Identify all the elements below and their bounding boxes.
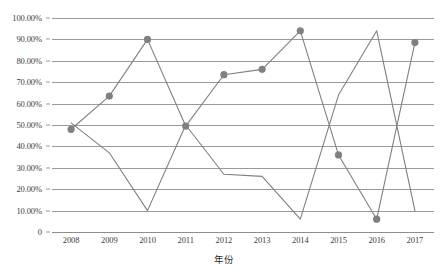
x-axis-tick-label: 2017 <box>407 236 424 245</box>
y-axis-tick-mark <box>46 125 50 126</box>
x-axis-title: 年份 <box>0 252 447 266</box>
x-axis-tick-label: 2014 <box>292 236 309 245</box>
y-axis-tick-label: 40.00% <box>16 142 42 151</box>
data-point-marker <box>144 36 151 43</box>
x-axis-tick-label: 2013 <box>254 236 271 245</box>
x-axis-tick-labels: 2008200920102011201220132014201520162017 <box>52 236 434 250</box>
y-axis-tick-mark <box>46 60 50 61</box>
y-axis-tick-mark <box>46 103 50 104</box>
x-axis-tick-label: 2009 <box>101 236 118 245</box>
series-lines-layer <box>52 18 434 232</box>
y-axis-tick-label: 100.00% <box>12 14 42 23</box>
x-axis-tick-label: 2011 <box>178 236 194 245</box>
y-axis-tick-mark <box>46 232 50 233</box>
data-point-marker <box>220 71 227 78</box>
plot-area <box>52 18 434 232</box>
x-axis-tick-label: 2012 <box>216 236 233 245</box>
y-axis-tick-label: 70.00% <box>16 78 42 87</box>
y-axis-tick-mark <box>46 146 50 147</box>
x-axis-line <box>52 232 434 233</box>
y-axis-tick-mark <box>46 39 50 40</box>
series-line <box>71 31 415 219</box>
y-axis-tick-label: 90.00% <box>16 35 42 44</box>
y-axis-tick-label: 50.00% <box>16 121 42 130</box>
data-point-marker <box>297 27 304 34</box>
y-axis-tick-label: 60.00% <box>16 99 42 108</box>
x-axis-tick-label: 2008 <box>63 236 80 245</box>
line-chart: 100.00%90.00%80.00%70.00%60.00%50.00%40.… <box>0 0 447 269</box>
x-axis-tick-label: 2015 <box>330 236 347 245</box>
series-line <box>71 31 415 219</box>
data-point-marker <box>373 216 380 223</box>
x-axis-tick-label: 2010 <box>139 236 156 245</box>
y-axis-tick-mark <box>46 167 50 168</box>
y-axis-tick-label: 30.00% <box>16 164 42 173</box>
y-axis-tick-mark <box>46 82 50 83</box>
y-axis-tick-label: 0 <box>38 228 42 237</box>
y-axis-tick-label: 10.00% <box>16 206 42 215</box>
y-axis-tick-label: 80.00% <box>16 57 42 66</box>
y-axis-tick-mark <box>46 210 50 211</box>
y-axis-tick-mark <box>46 189 50 190</box>
data-point-marker <box>335 151 342 158</box>
data-point-marker <box>182 122 189 129</box>
data-point-marker <box>106 93 113 100</box>
x-axis-tick-label: 2016 <box>368 236 385 245</box>
data-point-marker <box>411 39 418 46</box>
y-axis-tick-labels: 100.00%90.00%80.00%70.00%60.00%50.00%40.… <box>0 0 48 269</box>
y-axis-tick-mark <box>46 18 50 19</box>
data-point-marker <box>259 66 266 73</box>
data-point-marker <box>68 126 75 133</box>
y-axis-tick-label: 20.00% <box>16 185 42 194</box>
